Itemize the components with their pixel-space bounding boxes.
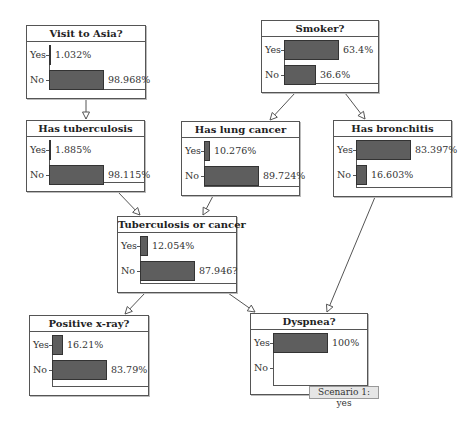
probability-value: 100% <box>332 332 359 354</box>
state-label: No <box>121 260 135 282</box>
state-label: No <box>265 64 279 86</box>
state-label: No <box>337 164 351 186</box>
tick-mark <box>270 368 273 369</box>
state-label: Yes <box>337 139 353 161</box>
edge-smoker-lung <box>270 93 295 120</box>
state-row-no[interactable]: No36.6% <box>262 64 378 86</box>
node-bronc[interactable]: Has bronchitisYes83.397%No16.603% <box>333 120 452 197</box>
state-row-no[interactable]: No83.79% <box>30 359 148 381</box>
belief-bars: Yes63.4%No36.6% <box>262 37 378 92</box>
state-label: Yes <box>254 332 270 354</box>
baseline <box>52 386 148 387</box>
edge-bronc-dysp <box>327 197 375 312</box>
probability-value: 16.603% <box>371 164 413 186</box>
state-row-yes[interactable]: Yes12.054% <box>118 235 236 257</box>
state-row-yes[interactable]: Yes63.4% <box>262 39 378 61</box>
probability-value: 1.032% <box>55 44 91 66</box>
node-xray[interactable]: Positive x-ray?Yes16.21%No83.79% <box>29 315 149 396</box>
state-label: No <box>30 69 44 91</box>
node-asia[interactable]: Visit to Asia?Yes1.032%No98.968% <box>26 25 146 99</box>
state-row-no[interactable]: No98.115% <box>27 164 144 186</box>
node-title: Smoker? <box>262 21 378 37</box>
probability-bar <box>356 165 367 185</box>
edge-smoker-bronc <box>345 93 365 119</box>
state-label: No <box>254 357 268 379</box>
state-label: No <box>33 359 47 381</box>
edge-lung-either <box>203 196 213 215</box>
scenario-label: Scenario 1: yes <box>309 386 379 399</box>
probability-bar <box>273 333 328 353</box>
arrowhead-icon <box>358 111 365 119</box>
arrowhead-icon <box>83 112 90 119</box>
state-row-no[interactable]: No87.946? <box>118 260 236 282</box>
node-title: Has lung cancer <box>182 122 299 138</box>
probability-value: 63.4% <box>343 39 373 61</box>
belief-bars: Yes16.21%No83.79% <box>30 332 148 395</box>
probability-value: 83.79% <box>111 359 147 381</box>
probability-value: 36.6% <box>320 64 350 86</box>
probability-value: 1.885% <box>55 139 91 161</box>
probability-bar <box>52 360 107 380</box>
node-title: Has bronchitis <box>334 121 451 137</box>
state-label: No <box>30 164 44 186</box>
node-title: Tuberculosis or cancer <box>118 217 236 233</box>
probability-value: 10.276% <box>214 140 256 162</box>
state-label: Yes <box>185 140 201 162</box>
probability-bar <box>204 141 210 161</box>
state-row-no[interactable]: No89.724% <box>182 165 299 187</box>
probability-value: 16.21% <box>67 334 103 356</box>
probability-bar <box>49 165 104 185</box>
probability-value: 98.115% <box>108 164 150 186</box>
probability-bar <box>49 140 51 160</box>
state-row-yes[interactable]: Yes100% <box>251 332 367 354</box>
probability-value: 83.397% <box>415 139 457 161</box>
probability-bar <box>140 236 148 256</box>
state-row-yes[interactable]: Yes83.397% <box>334 139 451 161</box>
state-row-no[interactable]: No <box>251 357 367 379</box>
baseline <box>356 187 451 188</box>
probability-value: 98.968% <box>108 69 150 91</box>
arrowhead-icon <box>133 208 140 215</box>
baseline <box>140 283 236 284</box>
state-row-no[interactable]: No98.968% <box>27 69 145 91</box>
node-title: Has tuberculosis <box>27 121 144 137</box>
belief-bars: Yes1.032%No98.968% <box>27 42 145 98</box>
belief-bars: Yes10.276%No89.724% <box>182 138 299 195</box>
probability-bar <box>52 335 63 355</box>
probability-bar <box>49 70 104 90</box>
state-label: Yes <box>30 44 46 66</box>
state-label: Yes <box>265 39 281 61</box>
belief-bars: Yes1.885%No98.115% <box>27 137 144 191</box>
probability-value: 12.054% <box>152 235 194 257</box>
state-label: Yes <box>30 139 46 161</box>
probability-bar <box>204 166 259 186</box>
node-smoker[interactable]: Smoker?Yes63.4%No36.6% <box>261 20 379 93</box>
probability-bar <box>140 261 195 281</box>
state-label: Yes <box>121 235 137 257</box>
state-row-yes[interactable]: Yes16.21% <box>30 334 148 356</box>
arrowhead-icon <box>247 305 255 312</box>
node-dysp[interactable]: Dyspnea?Yes100%No <box>250 313 368 395</box>
state-label: Yes <box>33 334 49 356</box>
node-lung[interactable]: Has lung cancerYes10.276%No89.724% <box>181 121 300 196</box>
state-row-yes[interactable]: Yes1.032% <box>27 44 145 66</box>
probability-bar <box>356 140 411 160</box>
node-title: Positive x-ray? <box>30 316 148 332</box>
node-title: Dyspnea? <box>251 314 367 330</box>
probability-bar <box>284 65 316 85</box>
node-tub[interactable]: Has tuberculosisYes1.885%No98.115% <box>26 120 145 192</box>
belief-bars: Yes100%No <box>251 330 367 394</box>
state-row-yes[interactable]: Yes10.276% <box>182 140 299 162</box>
arrowhead-icon <box>326 304 332 312</box>
arrowhead-icon <box>270 112 277 120</box>
node-either[interactable]: Tuberculosis or cancerYes12.054%No87.946… <box>117 216 237 293</box>
edge-tub-either <box>118 192 140 215</box>
belief-bars: Yes12.054%No87.946? <box>118 233 236 292</box>
state-row-yes[interactable]: Yes1.885% <box>27 139 144 161</box>
state-row-no[interactable]: No16.603% <box>334 164 451 186</box>
belief-bars: Yes83.397%No16.603% <box>334 137 451 196</box>
arrowhead-icon <box>203 207 209 215</box>
arrowhead-icon <box>125 307 132 314</box>
node-title: Visit to Asia? <box>27 26 145 42</box>
edge-either-dysp <box>228 293 255 312</box>
